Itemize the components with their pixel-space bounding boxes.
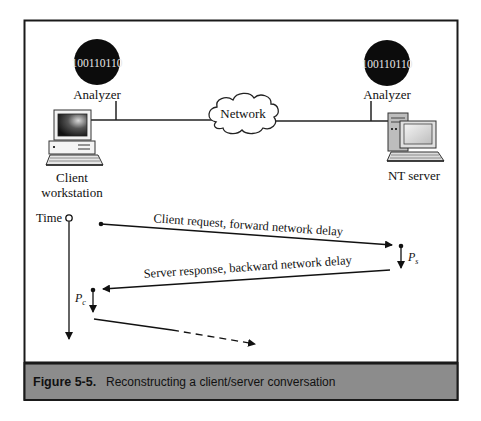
analyzer-label: Analyzer <box>73 87 121 102</box>
right-analyzer: 100110110 Analyzer <box>362 40 413 102</box>
network-label: Network <box>220 106 266 121</box>
figure-caption: Reconstructing a client/server conversat… <box>106 375 335 389</box>
figure-number: Figure 5-5. <box>33 375 96 389</box>
client-label-line1: Client <box>56 170 88 185</box>
analyzer-bits: 100110110 <box>72 57 123 69</box>
analyzer-label: Analyzer <box>363 87 411 102</box>
client-label-line2: workstation <box>41 185 103 200</box>
network-cloud: Network <box>209 93 278 133</box>
time-axis-label: Time <box>36 211 62 225</box>
nt-server: NT server <box>387 113 444 183</box>
server-label: NT server <box>388 168 441 183</box>
left-analyzer: 100110110 Analyzer <box>72 39 123 102</box>
figure-diagram: Figure 5-5. Reconstructing a client/serv… <box>0 0 481 421</box>
analyzer-bits: 100110110 <box>362 58 413 70</box>
time-origin-marker <box>66 215 72 221</box>
caption-band: Figure 5-5. Reconstructing a client/serv… <box>24 363 458 400</box>
